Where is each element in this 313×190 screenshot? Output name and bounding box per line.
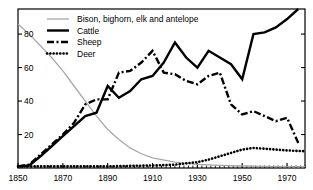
- x-tick-label: 1950: [233, 173, 252, 183]
- y-tick-label: 40: [24, 96, 34, 106]
- y-tick-label: 20: [24, 130, 34, 140]
- y-tick-label: 80: [24, 29, 34, 39]
- y-tick-label: 60: [24, 63, 34, 73]
- chart-container: 20406080 1850187018901910193019501970 Bi…: [0, 0, 313, 190]
- legend-label: Bison, bighorn, elk and antelope: [77, 14, 199, 24]
- legend-label: Sheep: [77, 37, 102, 47]
- x-tick-label: 1910: [143, 173, 162, 183]
- legend-label: Deer: [77, 49, 96, 59]
- x-axis-labels: 1850187018901910193019501970: [9, 173, 297, 183]
- legend-label: Cattle: [77, 26, 99, 36]
- line-chart: 20406080 1850187018901910193019501970 Bi…: [0, 0, 313, 190]
- x-tick-label: 1870: [53, 173, 72, 183]
- x-tick-label: 1970: [278, 173, 297, 183]
- x-tick-label: 1890: [98, 173, 117, 183]
- x-tick-label: 1930: [188, 173, 207, 183]
- x-tick-label: 1850: [9, 173, 28, 183]
